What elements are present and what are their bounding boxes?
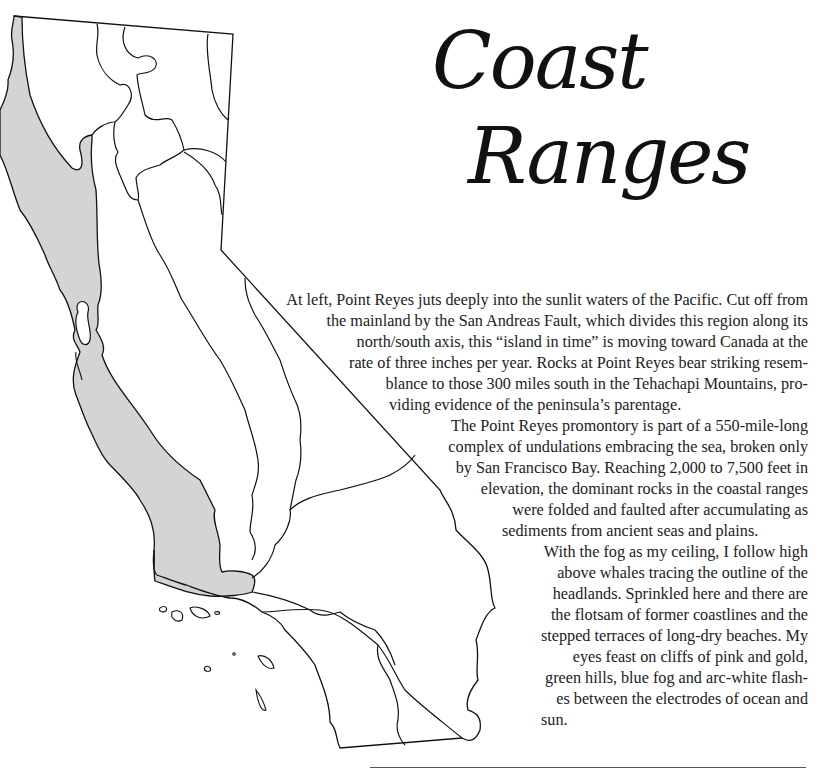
text-line: were folded and faulted after accumulati… bbox=[512, 501, 808, 520]
title-line-1: Coast bbox=[432, 22, 647, 100]
text-line: the flotsam of former coastlines and the bbox=[551, 606, 808, 625]
text-line: rate of three inches per year. Rocks at … bbox=[349, 354, 808, 373]
text-line: stepped terraces of long-dry beaches. My bbox=[541, 627, 808, 646]
text-line: above whales tracing the outline of the bbox=[557, 564, 808, 583]
text-line: es between the electrodes of ocean and bbox=[556, 690, 808, 709]
text-line: complex of undulations embracing the sea… bbox=[448, 438, 808, 457]
footer-rule bbox=[370, 767, 806, 768]
text-line: the mainland by the San Andreas Fault, w… bbox=[326, 312, 808, 331]
text-line: At left, Point Reyes juts deeply into th… bbox=[286, 291, 808, 310]
channel-islands bbox=[159, 607, 274, 711]
title-line-2: Ranges bbox=[468, 117, 749, 195]
text-line: blance to those 300 miles south in the T… bbox=[385, 375, 808, 394]
text-line: eyes feast on cliffs of pink and gold, bbox=[573, 648, 808, 667]
text-line: by San Francisco Bay. Reaching 2,000 to … bbox=[456, 459, 808, 478]
text-line: green hills, blue fog and arc-white flas… bbox=[545, 669, 808, 688]
text-line: sun. bbox=[541, 711, 568, 730]
text-line: headlands. Sprinkled here and there are bbox=[553, 585, 808, 604]
text-line: sediments from ancient seas and plains. bbox=[502, 522, 758, 541]
text-line: The Point Reyes promontory is part of a … bbox=[451, 417, 808, 436]
text-line: With the fog as my ceiling, I follow hig… bbox=[544, 543, 808, 562]
text-line: elevation, the dominant rocks in the coa… bbox=[481, 480, 808, 499]
text-line: viding evidence of the peninsula’s paren… bbox=[389, 396, 681, 415]
text-line: north/south axis, this “island in time” … bbox=[357, 333, 808, 352]
